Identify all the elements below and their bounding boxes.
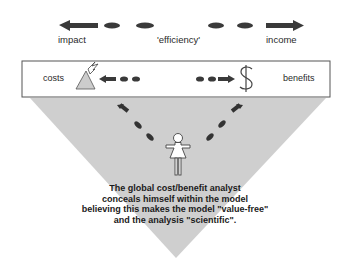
benefits-label: benefits — [283, 73, 315, 83]
caption-line-4: and the analysis "scientific". — [80, 215, 270, 226]
caption: The global cost/benefit analyst conceals… — [80, 183, 270, 225]
caption-line-2: conceals himself within the model — [80, 194, 270, 205]
impact-arrow-icon — [59, 20, 154, 31]
income-arrow-icon — [208, 20, 304, 31]
income-label: income — [266, 34, 297, 45]
caption-line-3: believing this makes the model "value-fr… — [80, 204, 270, 215]
efficiency-label: 'efficiency' — [157, 34, 200, 45]
impact-label: impact — [58, 34, 86, 45]
costs-label: costs — [43, 73, 64, 83]
model-triangle — [30, 98, 326, 258]
caption-line-1: The global cost/benefit analyst — [80, 183, 270, 194]
